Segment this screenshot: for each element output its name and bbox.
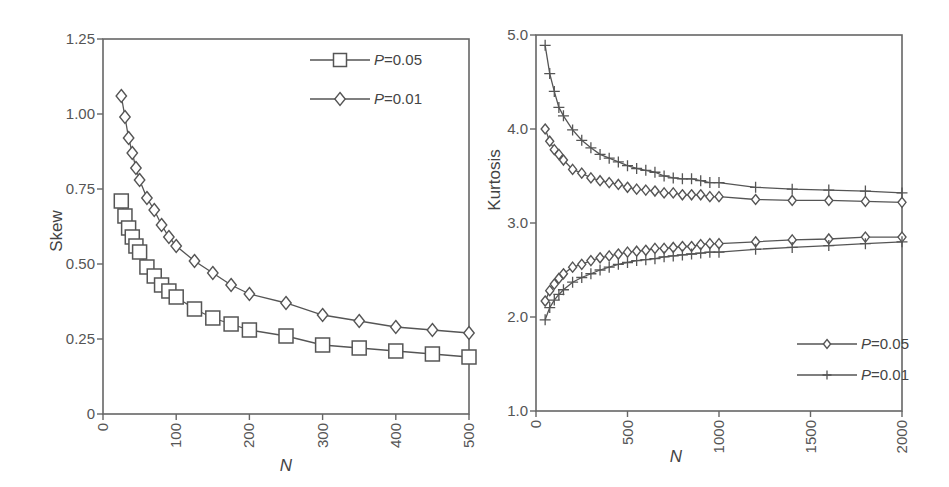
kurtosis-data-point <box>860 238 871 249</box>
kurtosis-y-axis-title: Kurtosis <box>485 149 504 210</box>
skew-y-axis-title: Skew <box>47 209 66 251</box>
kurtosis-data-point <box>697 190 705 200</box>
skew-y-tick-label: 1.25 <box>66 30 95 47</box>
skew-data-point <box>169 290 183 304</box>
skew-data-point <box>226 279 236 292</box>
kurtosis-data-point <box>714 247 725 258</box>
skew-legend-label: P=0.01 <box>374 90 422 107</box>
kurtosis-y-tick-label: 1.0 <box>507 402 528 419</box>
skew-data-point <box>208 267 218 280</box>
kurtosis-data-point <box>678 190 686 200</box>
kurtosis-data-point <box>706 192 714 202</box>
kurtosis-x-tick-label: 1500 <box>802 420 819 453</box>
kurtosis-data-point <box>651 243 659 253</box>
kurtosis-legend-label: P=0.05 <box>861 335 909 352</box>
kurtosis-data-point <box>569 262 577 272</box>
kurtosis-data-point <box>668 250 679 261</box>
skew-y-tick-label: 0.25 <box>66 330 95 347</box>
kurtosis-series-line <box>545 237 902 301</box>
kurtosis-series-3 <box>540 236 908 325</box>
kurtosis-data-point <box>604 262 615 273</box>
kurtosis-data-point <box>642 185 650 195</box>
skew-data-point <box>149 204 159 217</box>
kurtosis-x-tick-label: 1000 <box>710 420 727 453</box>
skew-data-point <box>123 132 133 145</box>
kurtosis-data-point <box>613 259 624 270</box>
figure-canvas: 00.250.500.751.001.25 0100200300400500 S… <box>0 0 949 487</box>
skew-data-point <box>120 111 130 124</box>
skew-legend-item: P=0.01 <box>310 90 422 107</box>
skew-data-point <box>188 302 202 316</box>
skew-y-tick-label: 0.50 <box>66 255 95 272</box>
skew-chart: 00.250.500.751.001.25 0100200300400500 S… <box>47 30 477 475</box>
kurtosis-y-tick-label: 2.0 <box>507 308 528 325</box>
skew-data-point <box>389 344 403 358</box>
kurtosis-x-axis: 0500100015002000 <box>527 411 910 453</box>
kurtosis-data-point <box>787 242 798 253</box>
kurtosis-data-point <box>660 188 668 198</box>
kurtosis-data-point <box>614 249 622 259</box>
kurtosis-data-point <box>715 192 723 202</box>
skew-data-point <box>142 192 152 205</box>
kurtosis-x-tick-label: 500 <box>619 420 636 445</box>
skew-y-axis: 00.250.500.751.001.25 <box>66 30 103 422</box>
skew-data-point <box>114 194 128 208</box>
skew-series <box>114 90 476 365</box>
kurtosis-data-point <box>668 172 679 183</box>
kurtosis-legend-label: P=0.01 <box>861 366 909 383</box>
plus-marker-icon <box>823 371 832 380</box>
kurtosis-data-point <box>686 173 697 184</box>
kurtosis-data-point <box>750 244 761 255</box>
kurtosis-y-axis: 1.02.03.04.05.0 <box>507 26 536 419</box>
kurtosis-plot-frame <box>536 35 902 411</box>
skew-data-point <box>352 341 366 355</box>
skew-data-point <box>354 315 364 328</box>
kurtosis-series-1 <box>541 232 906 306</box>
kurtosis-data-point <box>541 296 549 306</box>
kurtosis-data-point <box>714 177 725 188</box>
kurtosis-data-point <box>631 163 642 174</box>
skew-data-point <box>206 311 220 325</box>
skew-data-point <box>316 338 330 352</box>
kurtosis-data-point <box>695 175 706 186</box>
skew-x-tick-label: 400 <box>387 423 404 448</box>
skew-legend: P=0.05P=0.01 <box>310 51 422 107</box>
kurtosis-data-point <box>578 259 586 269</box>
kurtosis-series-line <box>545 129 902 202</box>
kurtosis-data-point <box>642 245 650 255</box>
kurtosis-data-point <box>649 253 660 264</box>
kurtosis-data-point <box>624 247 632 257</box>
skew-x-tick-label: 200 <box>240 423 257 448</box>
kurtosis-data-point <box>640 165 651 176</box>
diamond-marker-icon <box>823 340 830 349</box>
kurtosis-data-point <box>541 124 549 134</box>
diamond-marker-icon <box>335 93 345 106</box>
kurtosis-data-point <box>823 240 834 251</box>
kurtosis-data-point <box>897 187 908 198</box>
kurtosis-data-point <box>752 195 760 205</box>
kurtosis-data-point <box>544 68 555 79</box>
skew-data-point <box>391 321 401 334</box>
skew-data-point <box>427 324 437 337</box>
skew-data-point <box>279 329 293 343</box>
kurtosis-data-point <box>540 40 551 51</box>
skew-data-point <box>317 309 327 322</box>
kurtosis-data-point <box>587 173 595 183</box>
kurtosis-y-tick-label: 5.0 <box>507 26 528 43</box>
skew-data-point <box>156 219 166 232</box>
kurtosis-data-point <box>669 188 677 198</box>
kurtosis-data-point <box>614 179 622 189</box>
kurtosis-y-tick-label: 4.0 <box>507 120 528 137</box>
kurtosis-series-2 <box>540 40 908 199</box>
skew-x-tick-label: 300 <box>314 423 331 448</box>
kurtosis-data-point <box>596 253 604 263</box>
kurtosis-data-point <box>688 190 696 200</box>
skew-data-point <box>133 245 147 259</box>
kurtosis-data-point <box>651 186 659 196</box>
skew-data-point <box>127 147 137 160</box>
kurtosis-data-point <box>624 182 632 192</box>
skew-legend-item: P=0.05 <box>310 51 422 68</box>
kurtosis-x-tick-label: 0 <box>527 420 544 428</box>
skew-x-tick-label: 100 <box>167 423 184 448</box>
square-marker-icon <box>334 54 347 67</box>
